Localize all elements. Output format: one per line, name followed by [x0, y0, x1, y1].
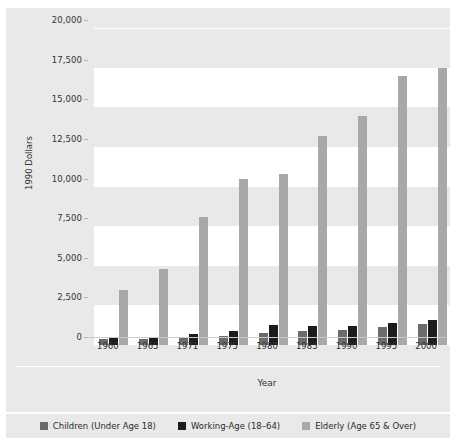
plot-area	[94, 28, 452, 345]
y-tick-label: 17,500	[30, 55, 82, 65]
legend-label: Elderly (Age 65 & Over)	[315, 421, 416, 431]
y-tick-mark	[84, 99, 88, 100]
y-tick-label: 12,500	[30, 134, 82, 144]
bar-elderly-1965	[159, 269, 168, 345]
chart-panel: 1990 Dollars	[6, 8, 450, 412]
legend-label: Children (Under Age 18)	[53, 421, 156, 431]
y-tick-label: 15,000	[30, 94, 82, 104]
y-tick-mark	[84, 258, 88, 259]
x-tick-label: 1980	[247, 341, 288, 351]
x-axis-line	[88, 337, 446, 338]
x-tick-label: 1975	[207, 341, 248, 351]
bar-elderly-1985	[318, 136, 327, 345]
chart-title	[0, 0, 456, 6]
legend-panel: Children (Under Age 18)Working-Age (18–6…	[6, 414, 450, 438]
legend-item-elderly[interactable]: Elderly (Age 65 & Over)	[302, 421, 416, 431]
bar-elderly-2000	[438, 68, 447, 345]
x-tick-label: 2000	[406, 341, 447, 351]
x-tick-label: 1985	[286, 341, 327, 351]
legend: Children (Under Age 18)Working-Age (18–6…	[6, 414, 450, 438]
chart-figure: 1990 Dollars Year Children (Under Age 18…	[0, 0, 456, 444]
x-tick-label: 1971	[167, 341, 208, 351]
legend-label: Working-Age (18–64)	[191, 421, 280, 431]
y-tick-label: 5,000	[30, 253, 82, 263]
bar-elderly-1995	[398, 76, 407, 345]
bar-elderly-1980	[279, 174, 288, 345]
y-tick-mark	[84, 60, 88, 61]
x-axis-title: Year	[88, 378, 446, 388]
x-tick-label: 1965	[127, 341, 168, 351]
bar-elderly-1990	[358, 116, 367, 345]
y-tick-label: 0	[30, 332, 82, 342]
y-tick-label: 10,000	[30, 174, 82, 184]
y-tick-mark	[84, 179, 88, 180]
y-tick-mark	[84, 297, 88, 298]
bar-elderly-1971	[199, 217, 208, 345]
bar-elderly-1975	[239, 179, 248, 345]
legend-swatch-icon	[178, 422, 186, 430]
y-axis-title: 1990 Dollars	[24, 93, 34, 233]
y-tick-label: 7,500	[30, 213, 82, 223]
y-tick-label: 2,500	[30, 292, 82, 302]
legend-item-children[interactable]: Children (Under Age 18)	[40, 421, 156, 431]
y-tick-mark	[84, 139, 88, 140]
x-tick-label: 1990	[326, 341, 367, 351]
x-tick-label: 1960	[87, 341, 128, 351]
legend-swatch-icon	[302, 422, 310, 430]
axis-divider	[16, 366, 440, 367]
y-tick-mark	[84, 218, 88, 219]
y-tick-mark	[84, 20, 88, 21]
y-tick-label: 20,000	[30, 15, 82, 25]
legend-item-working[interactable]: Working-Age (18–64)	[178, 421, 280, 431]
x-tick-label: 1995	[366, 341, 407, 351]
legend-swatch-icon	[40, 422, 48, 430]
gridline-top	[94, 28, 452, 29]
